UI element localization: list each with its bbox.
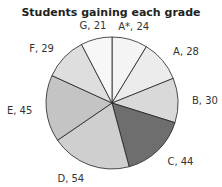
slice-label-d: D, 54 — [57, 173, 84, 184]
slice-label-b: B, 30 — [192, 95, 218, 106]
slice-label-g: G, 21 — [80, 20, 107, 31]
slice-label-f: F, 29 — [29, 43, 54, 54]
slice-label-c: C, 44 — [167, 156, 193, 167]
slice-label-e: E, 45 — [7, 105, 32, 116]
slice-label-a: A, 28 — [173, 46, 199, 57]
pie-chart: A*, 24A, 28B, 30C, 44D, 54E, 45F, 29G, 2… — [0, 0, 222, 187]
slice-label-astar: A*, 24 — [118, 21, 149, 32]
